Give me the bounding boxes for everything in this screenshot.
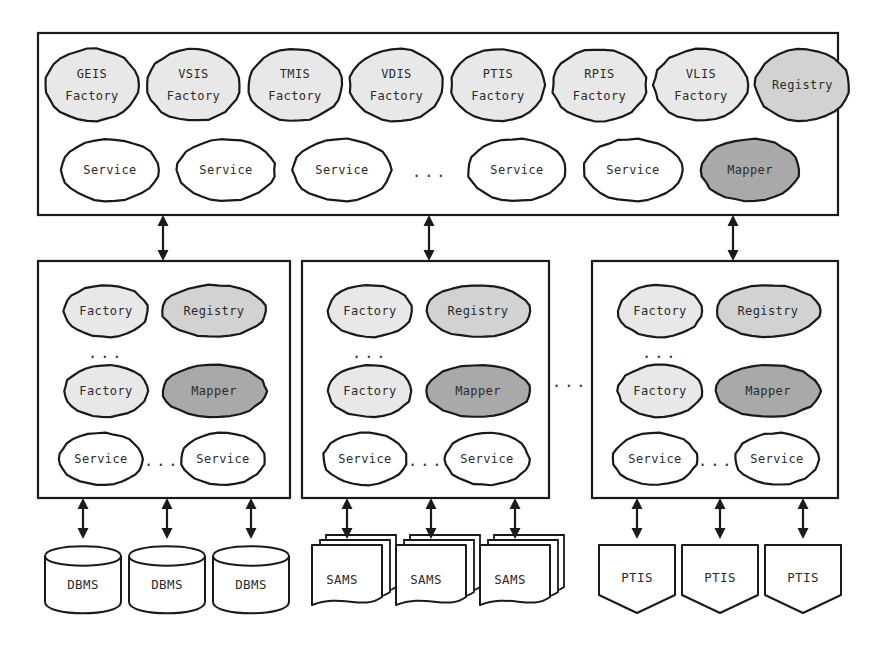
arrow-middle-0-to-source-2 [246,498,257,539]
dbms-group-1-label: DBMS [151,577,183,592]
top-factory-vdis[interactable] [350,49,443,122]
middle-wrapper-dbms-label-r1-0: Factory [79,304,132,318]
middle-wrapper-sams-factory-ellipsis: ... [352,343,388,362]
architecture-diagram: GEISFactoryVSISFactoryTMISFactoryVDISFac… [0,0,878,660]
sams-group-2[interactable]: SAMS [480,535,564,605]
top-factory-label-line1-4: PTIS [483,67,514,81]
top-factory-tmis[interactable] [249,49,342,121]
sams-group-1-label: SAMS [410,572,442,587]
middle-wrapper-dbms-label-r1-1: Registry [184,304,245,318]
ptis-group-2-label: PTIS [787,570,819,585]
arrow-top-to-middle-0 [158,215,169,261]
top-factory-label-line2-3: Factory [370,89,423,103]
middle-wrapper-sams-label-r1-1: Registry [448,304,509,318]
middle-wrapper-ptis-service-ellipsis: ... [698,451,734,470]
ptis-group-2[interactable]: PTIS [765,545,841,613]
arrow-middle-1-to-source-0 [342,498,353,539]
diagram-canvas: GEISFactoryVSISFactoryTMISFactoryVDISFac… [0,0,878,660]
arrow-middle-1-to-source-1 [426,498,437,539]
top-factory-label-line2-0: Factory [65,89,118,103]
dbms-group-0-label: DBMS [67,577,99,592]
top-factory-vsis[interactable] [147,49,239,120]
top-factory-ptis[interactable] [451,49,545,121]
top-factory-rpis[interactable] [553,50,647,122]
top-factory-label-line1-6: VLIS [686,67,717,81]
middle-layer-ellipsis: ... [552,372,588,391]
middle-wrapper-ptis-factory-ellipsis: ... [642,343,678,362]
middle-wrapper-sams-service-ellipsis: ... [408,451,444,470]
dbms-group-1[interactable]: DBMS [129,546,205,613]
middle-wrapper-sams-label-r1-0: Factory [343,304,396,318]
top-factory-label-line1-5: RPIS [584,67,615,81]
arrow-top-to-middle-2 [728,215,739,261]
top-factory-label-line2-6: Factory [674,89,727,103]
top-factory-geis[interactable] [46,48,139,121]
top-factory-label-line2-5: Factory [573,89,626,103]
middle-wrapper-ptis-label-r1-0: Factory [633,304,686,318]
middle-wrapper-dbms-label-r3-2: Service [196,452,249,466]
dbms-group-2-label: DBMS [235,577,267,592]
middle-wrapper-ptis-label-r1-1: Registry [738,304,799,318]
arrow-middle-2-to-source-2 [798,498,809,539]
top-factory-label-7: Registry [772,78,833,92]
ptis-group-1-label: PTIS [704,570,736,585]
dbms-group-0[interactable]: DBMS [45,546,121,613]
ptis-group-0-label: PTIS [621,570,653,585]
ptis-group-0[interactable]: PTIS [599,545,675,613]
sams-group-0-label: SAMS [326,572,358,587]
middle-wrapper-dbms-service-ellipsis: ... [144,451,180,470]
arrow-top-to-middle-1 [424,215,435,261]
middle-wrapper-sams-label-r3-0: Service [338,452,391,466]
top-service-label-0: Service [83,163,136,177]
middle-wrapper-dbms-label-r3-0: Service [74,452,127,466]
top-services-ellipsis: ... [412,162,448,181]
arrow-middle-1-to-source-2 [510,498,521,539]
middle-wrapper-ptis-label-r2-0: Factory [633,384,686,398]
top-service-label-2: Service [315,163,368,177]
top-service-label-5: Service [606,163,659,177]
sams-group-0[interactable]: SAMS [312,535,396,605]
top-factory-label-line1-3: VDIS [381,67,412,81]
top-factory-label-line1-0: GEIS [77,67,108,81]
ptis-group-1[interactable]: PTIS [682,545,758,613]
arrow-middle-2-to-source-1 [715,498,726,539]
middle-wrapper-sams-label-r2-0: Factory [343,384,396,398]
top-service-label-4: Service [490,163,543,177]
middle-wrapper-dbms-factory-ellipsis: ... [88,343,124,362]
middle-wrapper-sams-label-r2-1: Mapper [455,384,501,398]
top-factory-label-line2-4: Factory [471,89,524,103]
top-factory-label-line1-2: TMIS [280,67,311,81]
arrow-middle-2-to-source-0 [632,498,643,539]
middle-wrapper-dbms-label-r2-1: Mapper [191,384,237,398]
middle-wrapper-ptis-label-r2-1: Mapper [745,384,791,398]
sams-group-1[interactable]: SAMS [396,535,480,605]
middle-wrapper-ptis-label-r3-0: Service [628,452,681,466]
top-factory-label-line2-1: Factory [167,89,220,103]
middle-wrapper-ptis-label-r3-2: Service [750,452,803,466]
middle-wrapper-dbms-label-r2-0: Factory [79,384,132,398]
top-service-label-1: Service [199,163,252,177]
dbms-group-2[interactable]: DBMS [213,546,289,613]
top-service-label-6: Mapper [727,163,773,177]
sams-group-2-label: SAMS [494,572,526,587]
arrow-middle-0-to-source-0 [78,498,89,539]
middle-wrapper-sams-label-r3-2: Service [460,452,513,466]
top-factory-label-line2-2: Factory [268,89,321,103]
arrow-middle-0-to-source-1 [162,498,173,539]
top-factory-label-line1-1: VSIS [178,67,209,81]
top-factory-vlis[interactable] [653,49,748,121]
